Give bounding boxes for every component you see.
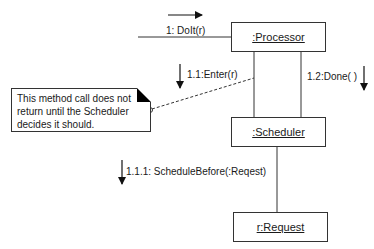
note-box: This method call does not return until t… (11, 88, 151, 132)
note-anchor-line (152, 78, 254, 109)
object-processor[interactable]: :Processor (231, 22, 326, 52)
object-processor-label: :Processor (252, 31, 305, 43)
note-text: This method call does not return until t… (17, 93, 131, 130)
message-enter-label: 1.1:Enter(r) (187, 69, 238, 81)
object-scheduler-label: :Scheduler (252, 126, 305, 138)
message-done-label: 1.2:Done( ) (307, 71, 357, 83)
note-fold-icon (137, 88, 151, 102)
object-request[interactable]: r:Request (233, 212, 328, 242)
message-schedulebefore-label: 1.1.1: ScheduleBefore(:Reqest) (126, 166, 266, 178)
object-scheduler[interactable]: :Scheduler (231, 117, 326, 147)
message-doit-label: 1: DoIt(r) (166, 25, 205, 37)
object-request-label: r:Request (257, 221, 305, 233)
